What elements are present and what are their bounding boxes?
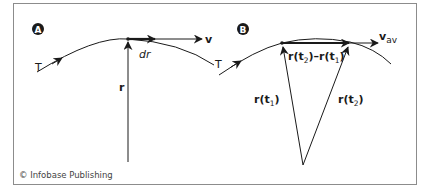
position-label-t2: r(t2) [338,93,364,108]
trajectory-curve-a [37,39,214,72]
panel-b-badge: B [237,23,249,35]
trajectory-label-b: T [214,58,222,71]
position-label-a: r [119,81,125,94]
panel-a-badge: A [32,23,44,35]
panel-a-badge-label: A [35,25,42,35]
trajectory-arrow-b [231,61,241,67]
figure-border [14,4,417,185]
trajectory-label-a: T [34,61,42,74]
panel-b: B T vav r(t2)–r(t1) r(t1) r(t2) [214,23,398,165]
panel-b-badge-label: B [240,25,247,35]
position-vector-t1 [283,47,303,165]
velocity-label-a: v [205,33,213,46]
average-velocity-label: vav [379,30,398,45]
panel-a: A T v dr r [32,23,214,162]
publisher-credit: © Infobase Publishing [19,170,113,180]
position-label-t1: r(t1) [254,93,280,108]
trajectory-arrow-a [52,58,62,64]
displacement-label-a: dr [139,48,152,61]
position-vector-t2 [303,47,348,165]
velocity-diagram: A T v dr r B T vav [0,0,431,194]
difference-label: r(t2)–r(t1) [288,50,345,65]
